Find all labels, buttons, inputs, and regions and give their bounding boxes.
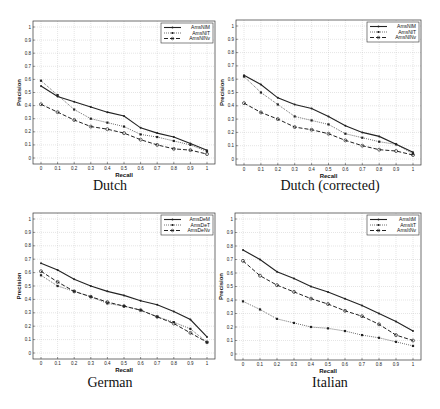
y-tick-label: 0.5 <box>227 284 234 289</box>
y-tick-label: 0 <box>231 157 234 162</box>
y-tick-label: 0.3 <box>228 117 235 122</box>
x-tick-label: 0.4 <box>104 361 111 366</box>
y-tick-label: 0.3 <box>227 311 234 316</box>
y-tick-label: 0.4 <box>228 103 235 108</box>
x-tick-label: 0 <box>243 167 246 172</box>
chart-svg: 00.10.20.30.40.50.60.70.80.9100.10.20.30… <box>220 205 440 385</box>
chart-svg: 00.10.20.30.40.50.60.70.80.9100.10.20.30… <box>0 0 220 180</box>
plot-area: 00.10.20.30.40.50.60.70.80.9100.10.20.30… <box>219 20 421 179</box>
y-tick-label: 0.6 <box>25 270 32 275</box>
y-tick-label: 0.2 <box>228 130 235 135</box>
x-tick-label: 0.2 <box>71 361 78 366</box>
chart-panel-german: 00.10.20.30.40.50.60.70.80.9100.10.20.30… <box>0 205 220 409</box>
x-tick-label: 0.1 <box>257 362 264 367</box>
x-tick-label: 0.7 <box>154 361 161 366</box>
y-tick-label: 0 <box>28 156 31 161</box>
y-tick-label: 0.1 <box>227 338 234 343</box>
legend-entry: AmsDeNv <box>187 227 210 233</box>
x-tick-label: 0.6 <box>137 166 144 171</box>
x-tick-label: 0.9 <box>393 362 400 367</box>
x-tick-label: 0.3 <box>291 362 298 367</box>
x-tick-label: 1 <box>412 362 415 367</box>
chart-panel-dutch-corrected: 00.10.20.30.40.50.60.70.80.9100.10.20.30… <box>220 0 440 205</box>
x-tick-label: 0.8 <box>171 166 178 171</box>
x-tick-label: 0.1 <box>258 167 265 172</box>
x-tick-label: 0.4 <box>104 166 111 171</box>
y-tick-label: 0.4 <box>25 103 32 108</box>
chart-caption: Italian <box>220 375 440 391</box>
y-tick-label: 1 <box>230 217 233 222</box>
y-tick-label: 0.8 <box>228 50 235 55</box>
y-axis-label: Precision <box>218 273 224 300</box>
x-tick-label: 0.7 <box>359 362 366 367</box>
y-tick-label: 0.6 <box>227 271 234 276</box>
x-tick-label: 0.6 <box>137 361 144 366</box>
legend-entry: AmsItNv <box>397 227 416 233</box>
y-tick-label: 0.8 <box>227 244 234 249</box>
x-tick-label: 0.7 <box>359 167 366 172</box>
y-tick-label: 0.3 <box>25 116 32 121</box>
legend: AmsNlMAmsNlTAmsNlNv <box>367 22 419 42</box>
chart-panel-dutch: 00.10.20.30.40.50.60.70.80.9100.10.20.30… <box>0 0 220 205</box>
y-tick-label: 0.4 <box>227 298 234 303</box>
chart-svg: 00.10.20.30.40.50.60.70.80.9100.10.20.30… <box>0 205 220 385</box>
y-tick-label: 0.6 <box>25 77 32 82</box>
legend-entry: AmsNlNv <box>189 35 210 41</box>
y-tick-label: 1 <box>231 24 234 29</box>
x-tick-label: 0.5 <box>121 361 128 366</box>
y-tick-label: 0.7 <box>228 63 235 68</box>
x-tick-label: 1 <box>206 166 209 171</box>
x-tick-label: 0.4 <box>308 362 315 367</box>
y-tick-label: 0 <box>28 351 31 356</box>
x-tick-label: 1 <box>412 167 415 172</box>
y-tick-label: 0.2 <box>25 129 32 134</box>
y-tick-label: 0.2 <box>25 324 32 329</box>
y-tick-label: 0.3 <box>25 310 32 315</box>
x-tick-label: 0.3 <box>88 361 95 366</box>
x-tick-label: 0 <box>40 166 43 171</box>
x-tick-label: 0.5 <box>325 167 332 172</box>
x-axis-label: Recall <box>319 368 337 374</box>
legend: AmsNlMAmsNlTAmsNlNv <box>161 23 213 43</box>
legend: AmsItMAmsItTAmsItNv <box>367 215 419 235</box>
x-tick-label: 0.9 <box>393 167 400 172</box>
y-axis-label: Precision <box>219 79 225 106</box>
y-tick-label: 0.9 <box>25 38 32 43</box>
x-tick-label: 0.6 <box>342 362 349 367</box>
y-axis-label: Precision <box>16 272 22 299</box>
y-tick-label: 0.6 <box>228 77 235 82</box>
plot-area: 00.10.20.30.40.50.60.70.80.9100.10.20.30… <box>16 213 215 373</box>
y-tick-label: 0.5 <box>228 90 235 95</box>
plot-area: 00.10.20.30.40.50.60.70.80.9100.10.20.30… <box>16 21 215 178</box>
chart-caption: Dutch (corrected) <box>220 178 440 194</box>
y-tick-label: 0.7 <box>25 257 32 262</box>
y-tick-label: 1 <box>28 217 31 222</box>
y-tick-label: 0.9 <box>228 37 235 42</box>
x-tick-label: 1 <box>206 361 209 366</box>
y-tick-label: 0.2 <box>227 325 234 330</box>
x-tick-label: 0 <box>242 362 245 367</box>
y-tick-label: 0.8 <box>25 243 32 248</box>
chart-svg: 00.10.20.30.40.50.60.70.80.9100.10.20.30… <box>220 0 440 180</box>
x-tick-label: 0.3 <box>292 167 299 172</box>
x-tick-label: 0.5 <box>121 166 128 171</box>
plot-area: 00.10.20.30.40.50.60.70.80.9100.10.20.30… <box>218 213 421 374</box>
x-tick-label: 0.2 <box>274 362 281 367</box>
x-tick-label: 0.8 <box>376 167 383 172</box>
y-tick-label: 0 <box>230 352 233 357</box>
x-tick-label: 0.2 <box>275 167 282 172</box>
x-tick-label: 0.6 <box>342 167 349 172</box>
x-tick-label: 0.9 <box>187 166 194 171</box>
x-tick-label: 0.8 <box>171 361 178 366</box>
y-tick-label: 0.8 <box>25 51 32 56</box>
y-axis-label: Precision <box>16 79 22 106</box>
chart-caption: Dutch <box>0 178 220 194</box>
y-tick-label: 0.1 <box>25 337 32 342</box>
x-tick-label: 0.7 <box>154 166 161 171</box>
chart-panel-italian: 00.10.20.30.40.50.60.70.80.9100.10.20.30… <box>220 205 440 409</box>
y-tick-label: 0.4 <box>25 297 32 302</box>
x-tick-label: 0 <box>40 361 43 366</box>
x-tick-label: 0.2 <box>71 166 78 171</box>
y-tick-label: 0.9 <box>25 230 32 235</box>
y-tick-label: 0.7 <box>227 257 234 262</box>
